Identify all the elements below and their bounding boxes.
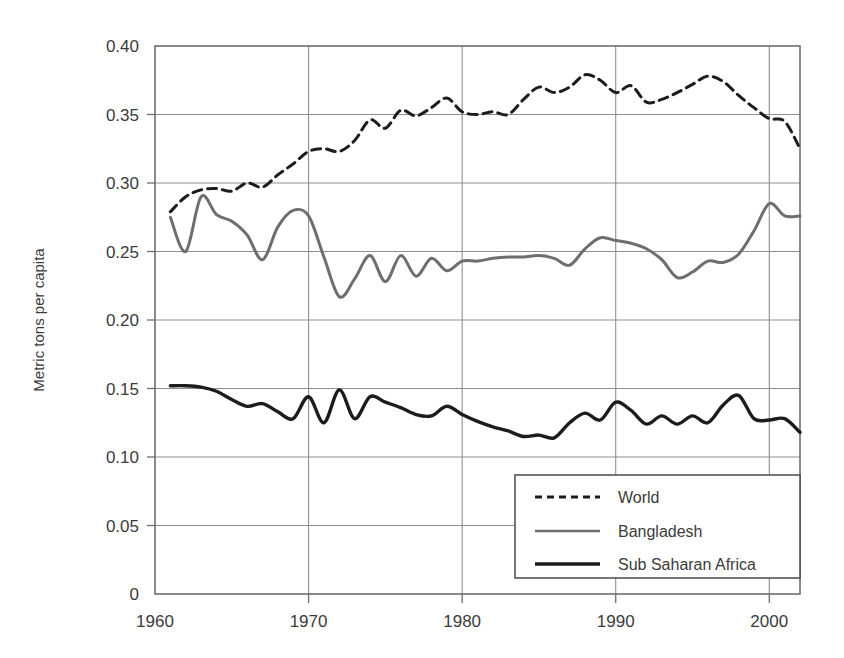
y-axis-title: Metric tons per capita <box>30 248 47 392</box>
y-tick-label: 0 <box>130 585 139 604</box>
y-tick-label: 0.10 <box>106 448 139 467</box>
y-tick-label: 0.25 <box>106 243 139 262</box>
y-tickmarks <box>147 115 155 526</box>
series-line <box>170 196 800 298</box>
y-gridlines <box>155 115 800 526</box>
y-tick-label: 0.30 <box>106 174 139 193</box>
y-tick-label: 0.15 <box>106 380 139 399</box>
series-line <box>170 386 800 439</box>
y-tick-label: 0.35 <box>106 106 139 125</box>
x-tick-label: 1970 <box>290 612 328 631</box>
x-axis-tick-labels: 19601970198019902000 <box>136 612 788 631</box>
y-tick-label: 0.40 <box>106 37 139 56</box>
legend-label: Bangladesh <box>618 523 703 540</box>
x-tick-label: 1960 <box>136 612 174 631</box>
x-tickmarks <box>309 594 770 603</box>
x-tick-label: 1990 <box>597 612 635 631</box>
series-line <box>170 75 800 212</box>
y-tick-label: 0.05 <box>106 517 139 536</box>
legend-label: Sub Saharan Africa <box>618 556 756 573</box>
legend: WorldBangladeshSub Saharan Africa <box>515 475 800 578</box>
legend-label: World <box>618 489 660 506</box>
y-axis-tick-labels: 00.050.100.150.200.250.300.350.40 <box>106 37 139 604</box>
x-tick-label: 1980 <box>443 612 481 631</box>
chart-container: 00.050.100.150.200.250.300.350.40 196019… <box>0 0 844 658</box>
series-layer <box>170 75 800 439</box>
x-tick-label: 2000 <box>750 612 788 631</box>
y-tick-label: 0.20 <box>106 311 139 330</box>
line-chart: 00.050.100.150.200.250.300.350.40 196019… <box>0 0 844 658</box>
